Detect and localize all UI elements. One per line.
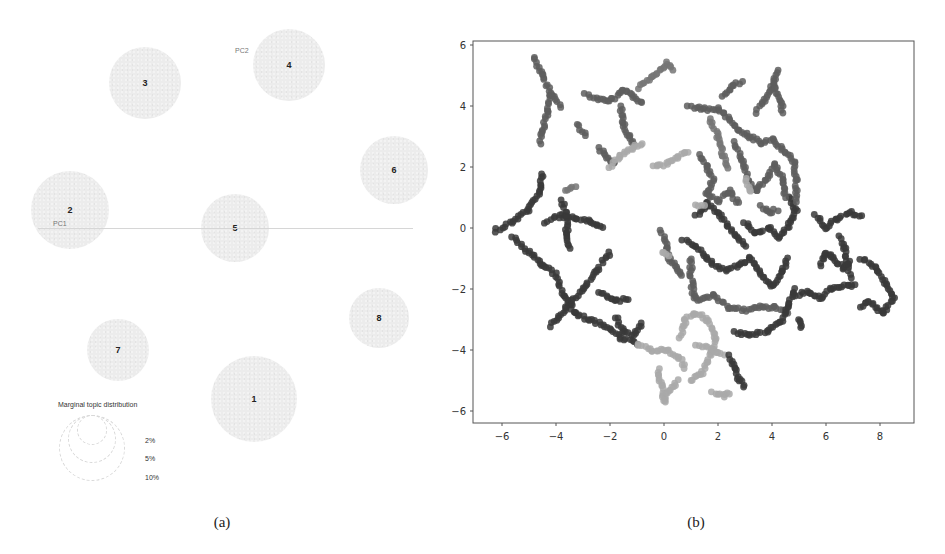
plot-frame xyxy=(473,41,914,423)
y-tick-label: 6 xyxy=(460,40,466,51)
legend-label-5pct: 5% xyxy=(145,455,155,462)
topic-label: 7 xyxy=(115,345,120,355)
x-tick-label: 2 xyxy=(715,431,721,442)
x-tick-label: 0 xyxy=(661,431,667,442)
x-tick-label: 4 xyxy=(769,431,775,442)
scatter-plot-panel: −6−4−202468 −6−4−20246 xyxy=(440,0,945,500)
x-tick-label: −4 xyxy=(549,431,564,442)
topic-label: 3 xyxy=(142,78,147,88)
legend-title: Marginal topic distribution xyxy=(58,401,137,408)
y-tick-label: 0 xyxy=(460,223,466,234)
legend-label-10pct: 10% xyxy=(145,474,159,481)
x-tick-label: 8 xyxy=(877,431,883,442)
topic-label: 6 xyxy=(391,165,396,175)
y-axis-ticks: −6−4−20246 xyxy=(451,40,473,417)
intertopic-distance-map: 12345678 PC1 PC2 Marginal topic distribu… xyxy=(0,0,440,500)
x-tick-label: 6 xyxy=(823,431,829,442)
y-tick-label: −4 xyxy=(451,345,466,356)
topic-label: 2 xyxy=(67,205,72,215)
y-tick-label: −2 xyxy=(451,284,466,295)
legend-ring-2pct xyxy=(77,415,107,445)
topic-label: 1 xyxy=(251,394,256,404)
topic-label: 8 xyxy=(376,313,381,323)
pc1-axis-line xyxy=(38,228,413,229)
x-tick-label: −6 xyxy=(495,431,510,442)
caption-b: (b) xyxy=(687,514,705,531)
scatter-points xyxy=(492,54,898,406)
pc2-axis-label: PC2 xyxy=(235,47,249,54)
y-tick-label: −6 xyxy=(451,406,466,417)
legend-label-2pct: 2% xyxy=(145,437,155,444)
y-tick-label: 4 xyxy=(460,101,466,112)
x-tick-label: −2 xyxy=(603,431,618,442)
x-axis-ticks: −6−4−202468 xyxy=(495,423,884,442)
y-tick-label: 2 xyxy=(460,162,466,173)
pc1-axis-label: PC1 xyxy=(53,220,67,227)
scatter-plot: −6−4−202468 −6−4−20246 xyxy=(440,0,945,500)
topic-label: 4 xyxy=(286,60,291,70)
caption-a: (a) xyxy=(214,514,231,531)
